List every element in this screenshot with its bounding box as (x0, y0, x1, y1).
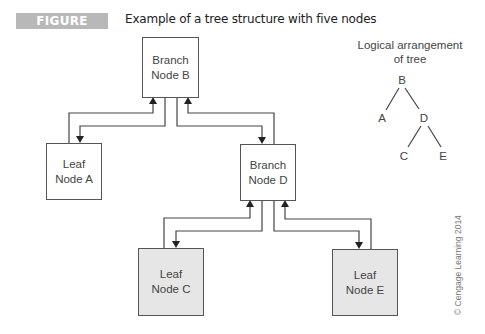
node-d-line1: Branch (250, 158, 286, 173)
logical-tree-edges (386, 88, 441, 147)
node-c-line2: Node C (152, 282, 191, 297)
logical-node-d: D (418, 112, 430, 124)
copyright-notice: © Cengage Learning 2014 (453, 215, 463, 315)
logical-title-line2: of tree (355, 52, 465, 66)
node-e-line2: Node E (346, 283, 384, 298)
node-c-line1: Leaf (160, 267, 182, 282)
leaf-node-c: Leaf Node C (138, 248, 204, 316)
node-e-line1: Leaf (354, 268, 376, 283)
logical-arrangement-title: Logical arrangement of tree (355, 38, 465, 66)
logical-title-line1: Logical arrangement (355, 38, 465, 52)
logical-node-b: B (396, 74, 408, 86)
node-d-line2: Node D (249, 173, 288, 188)
leaf-node-e: Leaf Node E (332, 249, 398, 316)
branch-node-d: Branch Node D (240, 144, 296, 201)
logical-node-e: E (437, 150, 449, 162)
leaf-node-a: Leaf Node A (46, 143, 102, 200)
branch-node-b: Branch Node B (142, 37, 199, 98)
node-b-line1: Branch (152, 53, 188, 68)
node-a-line2: Node A (55, 172, 93, 187)
logical-node-a: A (376, 112, 388, 124)
node-a-line1: Leaf (63, 157, 85, 172)
node-b-line2: Node B (151, 68, 189, 83)
logical-node-c: C (398, 150, 410, 162)
